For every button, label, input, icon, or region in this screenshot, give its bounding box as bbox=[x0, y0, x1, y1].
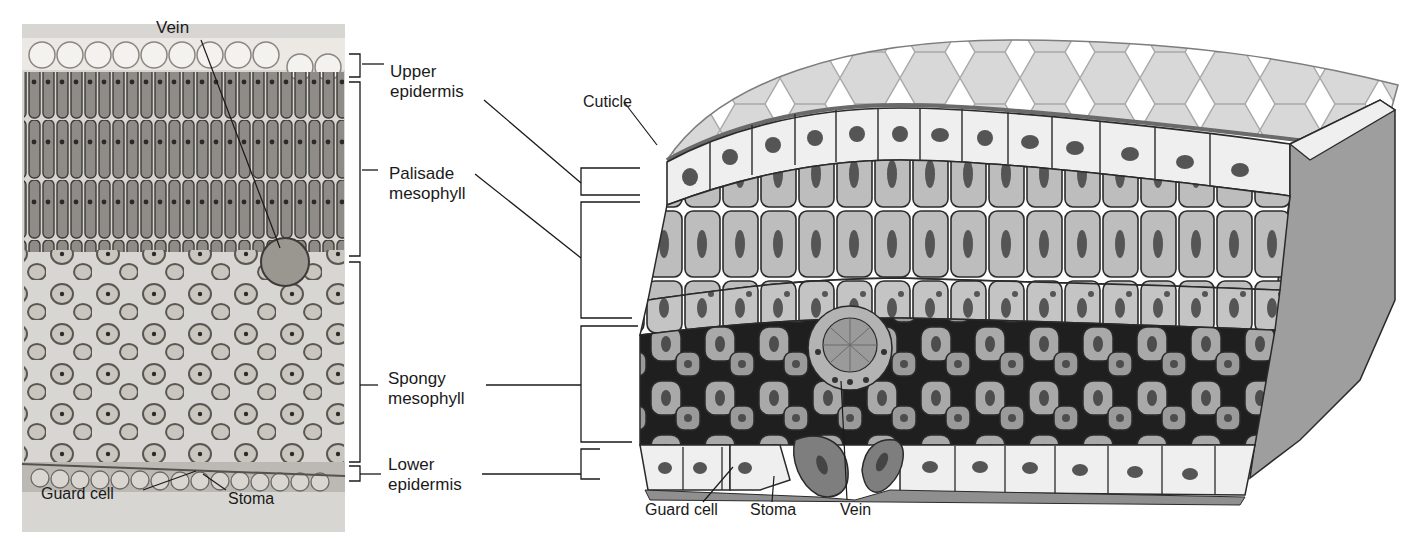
illus-label-guard-cell: Guard cell bbox=[645, 500, 718, 520]
spongy-mesophyll bbox=[640, 318, 1275, 445]
illustration-graphic bbox=[0, 0, 1408, 545]
label-palisade-mesophyll: Palisade mesophyll bbox=[389, 164, 466, 204]
vein-bundle bbox=[808, 306, 892, 390]
micro-label-vein: Vein bbox=[156, 18, 189, 38]
micro-label-stoma: Stoma bbox=[228, 489, 274, 509]
illus-label-stoma: Stoma bbox=[750, 500, 796, 520]
illus-label-vein: Vein bbox=[840, 500, 871, 520]
label-spongy-mesophyll: Spongy mesophyll bbox=[388, 369, 465, 409]
label-lower-epidermis: Lower epidermis bbox=[388, 455, 462, 495]
illus-label-cuticle: Cuticle bbox=[583, 92, 632, 112]
label-upper-epidermis: Upper epidermis bbox=[390, 62, 464, 102]
micro-label-guard-cell: Guard cell bbox=[41, 484, 114, 504]
